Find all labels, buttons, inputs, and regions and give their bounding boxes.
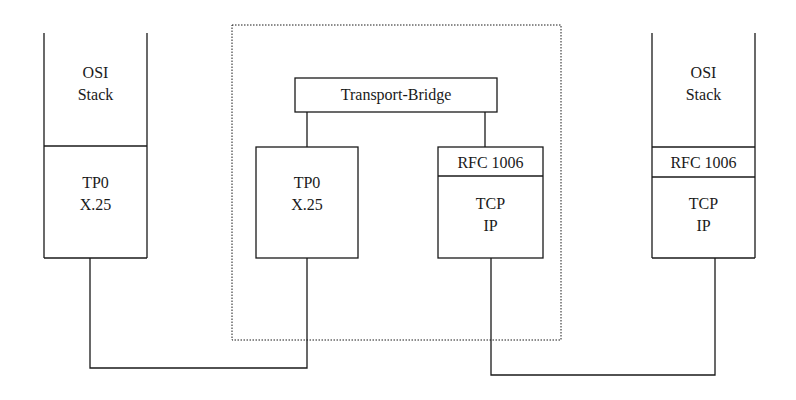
tcpip-link — [491, 258, 715, 375]
label-line: OSI — [44, 62, 147, 84]
left-stack-lower-label: TP0 X.25 — [44, 172, 147, 216]
x25-link — [90, 258, 307, 368]
label-line: TCP — [652, 193, 755, 215]
label-line: IP — [652, 215, 755, 237]
bridge-rfc-header: RFC 1006 — [438, 152, 543, 174]
right-stack-lower-label: TCP IP — [652, 193, 755, 237]
right-stack-upper-label: OSI Stack — [652, 62, 755, 106]
label-line: OSI — [652, 62, 755, 84]
label-line: X.25 — [256, 194, 358, 216]
label-line: Stack — [652, 84, 755, 106]
label-line: TP0 — [256, 172, 358, 194]
bridge-tp0-label: TP0 X.25 — [256, 172, 358, 216]
label-line: IP — [438, 215, 543, 237]
label-line: TCP — [438, 193, 543, 215]
left-stack-upper-label: OSI Stack — [44, 62, 147, 106]
bridge-rfc-body: TCP IP — [438, 193, 543, 237]
right-stack-rfc-label: RFC 1006 — [652, 152, 755, 174]
label-line: TP0 — [44, 172, 147, 194]
label-line: Stack — [44, 84, 147, 106]
label-line: X.25 — [44, 194, 147, 216]
transport-bridge-label: Transport-Bridge — [295, 84, 497, 106]
